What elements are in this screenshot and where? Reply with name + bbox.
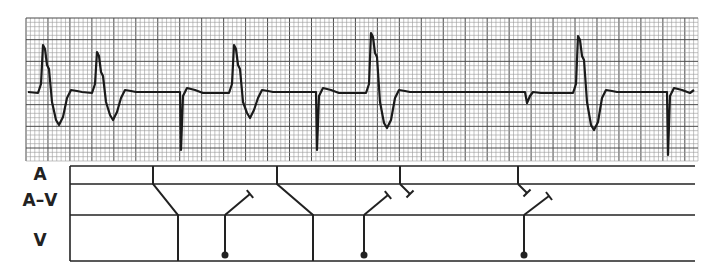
- conducted-beat-path: [153, 166, 178, 261]
- retrograde-blocked-conduction: [524, 196, 549, 215]
- retrograde-blocked-conduction: [225, 194, 250, 215]
- ectopic-origin-dot: [222, 252, 229, 259]
- label-av-node: A–V: [10, 192, 70, 209]
- ectopic-origin-dot: [521, 252, 528, 259]
- ectopic-origin-dot: [361, 252, 368, 259]
- label-atrium: A: [10, 166, 70, 183]
- conducted-beat-path: [277, 166, 313, 261]
- blocked-av-conduction: [518, 184, 527, 193]
- ecg-strip: [0, 0, 722, 279]
- label-ventricle: V: [10, 232, 70, 249]
- retrograde-blocked-conduction: [364, 195, 388, 215]
- figure: A A–V V: [0, 0, 722, 279]
- blocked-av-conduction: [400, 184, 410, 194]
